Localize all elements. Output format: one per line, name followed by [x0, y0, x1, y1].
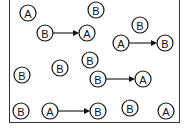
- particle-b: B: [14, 67, 30, 83]
- particle-label: B: [161, 38, 168, 50]
- particle-b: B: [122, 100, 138, 116]
- particle-b: B: [88, 2, 104, 18]
- particle-label: A: [162, 106, 170, 118]
- particle-b: B: [82, 52, 98, 68]
- particle-label: B: [92, 5, 99, 17]
- particle-b: B: [37, 25, 53, 41]
- particle-label: B: [41, 28, 48, 40]
- diagram-canvas: ABBABABBBBBABABBA: [0, 0, 189, 136]
- particle-a: A: [20, 5, 36, 21]
- particle-label: B: [86, 55, 93, 67]
- particle-a: A: [42, 103, 58, 119]
- particle-a: A: [158, 103, 174, 119]
- particle-b: B: [52, 60, 68, 76]
- particle-label: B: [94, 106, 101, 118]
- particle-label: B: [94, 74, 101, 86]
- particle-label: A: [24, 8, 32, 20]
- particle-a: A: [79, 25, 95, 41]
- particle-a: A: [135, 71, 151, 87]
- arrow: [129, 40, 157, 46]
- particle-label: A: [46, 106, 54, 118]
- particle-b: B: [13, 103, 29, 119]
- arrow: [58, 108, 90, 114]
- particle-label: B: [56, 63, 63, 75]
- particle-b: B: [157, 35, 173, 51]
- arrow: [53, 30, 79, 36]
- particle-label: B: [136, 20, 143, 32]
- arrow: [106, 76, 135, 82]
- particle-b: B: [132, 17, 148, 33]
- particle-b: B: [90, 71, 106, 87]
- particle-label: B: [126, 103, 133, 115]
- particle-label: A: [117, 38, 125, 50]
- particle-label: B: [17, 106, 24, 118]
- particle-b: B: [90, 103, 106, 119]
- particle-label: A: [83, 28, 91, 40]
- particle-label: A: [139, 74, 147, 86]
- particle-a: A: [113, 35, 129, 51]
- particle-label: B: [18, 70, 25, 82]
